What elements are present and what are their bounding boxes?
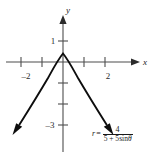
y-tick-label-1: 1 <box>51 36 56 46</box>
equation-equals-sign: = <box>96 130 101 138</box>
y-axis: y <box>59 5 70 152</box>
equation-lhs: r <box>92 130 95 138</box>
x-tick-label-2: 2 <box>106 71 111 81</box>
y-axis-label: y <box>65 5 70 15</box>
denominator-prefix: 5 + 5 <box>104 134 119 143</box>
denominator-variable-theta: θ <box>128 134 132 143</box>
y-axis-arrowhead <box>59 15 66 24</box>
x-axis: x <box>6 57 147 67</box>
x-axis-arrowhead <box>131 58 140 65</box>
fraction-numerator: 4 <box>113 126 123 134</box>
denominator-function: sin <box>119 134 128 143</box>
equation-label: r = 4 5 + 5sinθ <box>92 126 133 143</box>
y-tick-label-minus3: –3 <box>45 120 56 130</box>
polar-parabola-figure: x y –2 2 1 –3 <box>0 0 157 154</box>
equation-fraction: 4 5 + 5sinθ <box>103 126 133 143</box>
x-axis-label: x <box>142 57 147 67</box>
curve-arrowhead-left <box>13 123 23 135</box>
fraction-denominator: 5 + 5sinθ <box>103 135 133 143</box>
x-tick-label-minus2: –2 <box>21 71 31 81</box>
